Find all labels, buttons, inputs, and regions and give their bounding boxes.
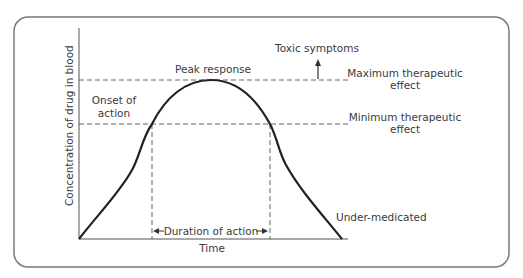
arrow-left-icon — [153, 228, 159, 234]
max-therapeutic-label-line2: effect — [390, 79, 420, 91]
toxic-symptoms-label: Toxic symptoms — [274, 42, 359, 54]
arrow-right-icon — [262, 228, 268, 234]
duration-label: Duration of action — [164, 225, 259, 237]
max-therapeutic-label-line1: Maximum therapeutic — [347, 67, 463, 79]
y-axis-label: Concentration of drug in blood — [63, 45, 75, 206]
peak-response-label: Peak response — [175, 63, 251, 75]
min-therapeutic-label-line2: effect — [390, 123, 420, 135]
panel-border — [14, 17, 509, 267]
under-medicated-label: Under-medicated — [336, 211, 427, 223]
onset-label-line2: action — [98, 107, 130, 119]
arrow-up-icon — [315, 59, 321, 66]
drug-concentration-diagram: Concentration of drug in blood Time Peak… — [0, 0, 523, 278]
min-therapeutic-label-line1: Minimum therapeutic — [349, 111, 462, 123]
onset-label-line1: Onset of — [92, 94, 137, 106]
x-axis-label: Time — [198, 242, 225, 254]
